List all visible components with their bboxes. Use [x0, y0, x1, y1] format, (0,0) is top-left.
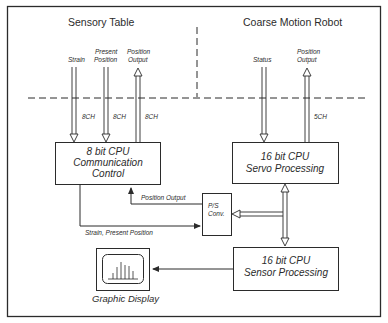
svg-text:16 bit CPU: 16 bit CPU — [261, 151, 310, 162]
status-label: Status — [253, 56, 272, 63]
status-bus-arrow — [260, 67, 268, 142]
strain-label: Strain — [68, 56, 85, 63]
svg-text:P/S: P/S — [208, 202, 219, 209]
svg-text:Control: Control — [92, 168, 125, 179]
position-output-right-label-1: Position — [297, 48, 321, 55]
sensory-table-title: Sensory Table — [68, 16, 135, 28]
present-position-label-2: Position — [94, 56, 118, 63]
output-channel-label: 8CH — [145, 113, 158, 120]
robot-channel-label: 5CH — [314, 113, 327, 120]
comm-cpu-block: 8 bit CPU Communication Control — [56, 143, 161, 185]
svg-text:Conv.: Conv. — [208, 210, 225, 217]
svg-text:8 bit CPU: 8 bit CPU — [87, 146, 131, 157]
position-output-link-label: Position Output — [141, 194, 187, 202]
graphic-display-monitor — [97, 249, 150, 291]
strain-present-link — [80, 184, 200, 226]
coarse-motion-robot-title: Coarse Motion Robot — [243, 16, 342, 28]
position-output-left-label-1: Position — [127, 48, 151, 55]
present-channel-label: 8CH — [113, 113, 126, 120]
present-position-label-1: Present — [95, 48, 119, 55]
strain-channel-label: 8CH — [82, 113, 95, 120]
position-output-right-label-2: Output — [297, 56, 318, 64]
svg-text:Servo Processing: Servo Processing — [246, 163, 325, 174]
position-output-left-bus-arrow — [134, 68, 142, 142]
position-output-left-label-2: Output — [128, 56, 149, 64]
strain-bus-arrow — [70, 67, 78, 142]
ps-converter-block: P/S Conv. — [203, 194, 232, 236]
svg-text:16 bit CPU: 16 bit CPU — [262, 255, 311, 266]
system-block-diagram: Sensory Table Coarse Motion Robot Strain… — [0, 0, 388, 323]
servo-cpu-block: 16 bit CPU Servo Processing — [233, 143, 339, 184]
svg-text:Communication: Communication — [73, 157, 143, 168]
servo-sensor-bus — [281, 184, 289, 246]
svg-text:Sensor Processing: Sensor Processing — [244, 267, 328, 278]
bus-to-ps-arrow — [232, 210, 283, 218]
present-position-bus-arrow — [102, 67, 110, 142]
sensor-cpu-block: 16 bit CPU Sensor Processing — [234, 248, 339, 291]
graphic-display-label: Graphic Display — [92, 293, 160, 304]
strain-present-link-label: Strain, Present Position — [85, 229, 153, 236]
position-output-right-bus-arrow — [303, 68, 311, 142]
